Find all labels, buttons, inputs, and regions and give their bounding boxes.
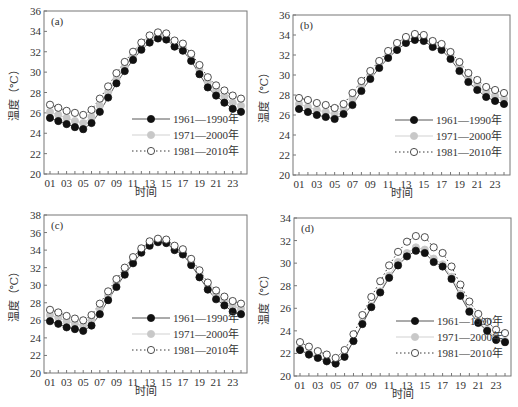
data-point (430, 244, 437, 251)
data-point (439, 263, 446, 270)
x-tick-label: 19 (194, 177, 206, 189)
data-point (323, 358, 330, 365)
y-tick-label: 22 (279, 149, 290, 161)
data-point (313, 99, 320, 106)
data-point (368, 304, 375, 311)
y-tick-label: 34 (30, 244, 42, 256)
legend-label: 1961—1990年 (437, 314, 503, 327)
series-line (299, 40, 504, 119)
data-point (221, 99, 228, 106)
legend-label: 1961—1990年 (436, 113, 502, 126)
panel-label: (b) (300, 19, 313, 32)
series-line (299, 37, 504, 114)
data-point (163, 236, 170, 243)
x-tick-label: 23 (227, 376, 239, 388)
data-point (386, 274, 393, 281)
data-point (447, 48, 454, 55)
legend-label: 1981—2010年 (173, 343, 239, 356)
data-point (237, 95, 244, 102)
data-point (393, 46, 400, 53)
data-point (88, 322, 95, 329)
x-tick-label: 03 (61, 376, 73, 388)
data-point (341, 346, 348, 353)
data-point (457, 281, 464, 288)
data-point (456, 67, 463, 74)
data-point (80, 327, 87, 334)
data-point (421, 234, 428, 241)
data-point (447, 55, 454, 62)
x-tick-label: 21 (211, 177, 222, 189)
data-point (88, 311, 95, 318)
legend-marker (147, 131, 154, 138)
x-tick-label: 03 (311, 178, 323, 190)
x-tick-label: 01 (45, 376, 56, 388)
data-point (403, 253, 410, 260)
y-axis-label: 温度（℃） (7, 266, 20, 322)
data-point (349, 89, 356, 96)
data-point (129, 48, 136, 55)
data-point (121, 68, 128, 75)
y-tick-label: 38 (30, 209, 42, 221)
x-tick-label: 17 (436, 178, 448, 190)
x-tick-label: 05 (330, 379, 342, 391)
data-point (314, 348, 321, 355)
x-tick-label: 15 (418, 178, 430, 190)
legend-label: 1971—2000年 (436, 129, 502, 142)
legend-marker (411, 349, 418, 356)
data-point (63, 107, 70, 114)
x-tick-label: 01 (295, 379, 306, 391)
data-point (105, 297, 112, 304)
data-point (146, 238, 153, 245)
x-tick-label: 07 (348, 379, 360, 391)
panel-b: 2022242628303234360103050709111315171921… (257, 9, 510, 199)
data-point (179, 47, 186, 54)
data-point (448, 263, 455, 270)
data-point (412, 232, 419, 239)
data-point (105, 288, 112, 295)
data-point (146, 39, 153, 46)
data-point (204, 279, 211, 286)
y-tick-label: 30 (30, 66, 42, 78)
data-point (113, 80, 120, 87)
x-tick-label: 23 (491, 379, 503, 391)
data-point (121, 271, 128, 278)
data-point (188, 50, 195, 57)
x-tick-label: 05 (329, 178, 341, 190)
data-point (402, 33, 409, 40)
y-tick-label: 24 (30, 332, 42, 344)
panel-label: (a) (51, 15, 64, 28)
data-point (221, 302, 228, 309)
data-point (88, 119, 95, 126)
data-point (96, 311, 103, 318)
legend-marker (147, 314, 154, 321)
data-point (394, 248, 401, 255)
series-line (299, 34, 504, 108)
data-point (229, 297, 236, 304)
data-point (368, 293, 375, 300)
y-tick-label: 28 (279, 89, 291, 101)
data-point (500, 89, 507, 96)
data-point (314, 354, 321, 361)
x-tick-label: 01 (45, 177, 56, 189)
data-point (204, 286, 211, 293)
x-tick-label: 21 (211, 376, 222, 388)
data-point (196, 267, 203, 274)
data-point (96, 95, 103, 102)
data-point (96, 108, 103, 115)
y-tick-label: 26 (279, 109, 291, 121)
legend-label: 1971—2000年 (437, 330, 503, 343)
legend-marker (410, 148, 417, 155)
legend-label: 1961—1990年 (173, 112, 239, 125)
data-point (146, 32, 153, 39)
data-point (212, 287, 219, 294)
data-point (46, 114, 53, 121)
x-axis-label: 时间 (391, 187, 413, 199)
data-point (138, 39, 145, 46)
y-tick-label: 20 (279, 169, 291, 181)
x-tick-label: 15 (419, 379, 431, 391)
data-point (80, 317, 87, 324)
panel-label: (c) (51, 219, 64, 232)
data-point (55, 320, 62, 327)
legend-label: 1981—2010年 (173, 144, 239, 157)
y-tick-label: 34 (30, 25, 42, 37)
